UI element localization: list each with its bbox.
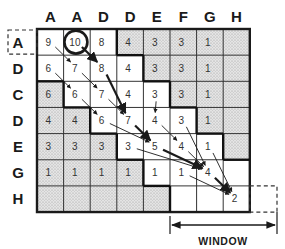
cell-value: 3 — [72, 141, 78, 152]
cell-value: 4 — [125, 63, 131, 74]
shaded-cell — [223, 107, 250, 133]
column-headers: AADDEFGH — [45, 8, 242, 25]
cell-value: 6 — [99, 115, 105, 126]
cell-value: 9 — [46, 37, 52, 48]
end-cell-dashed-box — [250, 186, 277, 212]
row-header: D — [13, 60, 24, 77]
cell-value: 6 — [72, 89, 78, 100]
cell-value: 7 — [125, 115, 131, 126]
cell-value: 4 — [179, 141, 185, 152]
row-header: A — [13, 34, 24, 51]
row-headers: ADCDEGH — [12, 34, 24, 208]
shaded-cell — [37, 186, 64, 212]
row-header: E — [13, 138, 23, 155]
shaded-cell — [223, 81, 250, 107]
cell-value: 3 — [179, 115, 185, 126]
cell-value: 1 — [152, 167, 158, 178]
cell-value: 4 — [125, 89, 131, 100]
cell-value: 8 — [99, 37, 105, 48]
row-header: D — [13, 112, 24, 129]
cell-value: 1 — [46, 167, 52, 178]
cell-value: 10 — [69, 37, 81, 48]
shaded-cell — [90, 186, 117, 212]
cell-value: 3 — [179, 63, 185, 74]
cell-value: 3 — [46, 141, 52, 152]
row-header: C — [13, 86, 24, 103]
cell-value: 1 — [125, 167, 131, 178]
cell-value: 1 — [72, 167, 78, 178]
cell-value: 7 — [72, 63, 78, 74]
column-header: D — [98, 8, 109, 25]
shaded-cell — [223, 29, 250, 55]
cell-value: 6 — [46, 63, 52, 74]
column-header: A — [45, 8, 56, 25]
cell-value: 1 — [205, 63, 211, 74]
cell-value: 1 — [99, 167, 105, 178]
cell-value: 1 — [179, 167, 185, 178]
cell-value: 8 — [99, 63, 105, 74]
shaded-cell — [117, 186, 144, 212]
column-header: E — [152, 8, 162, 25]
cell-value: 4 — [205, 167, 211, 178]
cell-value: 4 — [72, 115, 78, 126]
column-header: A — [71, 8, 82, 25]
cell-value: 1 — [205, 115, 211, 126]
shaded-cell — [223, 55, 250, 81]
cell-value: 4 — [152, 115, 158, 126]
cell-value: 3 — [125, 141, 131, 152]
row-header: H — [13, 190, 24, 207]
cell-value: 2 — [232, 193, 238, 204]
cell-value: 1 — [205, 37, 211, 48]
column-header: D — [125, 8, 136, 25]
cell-value: 3 — [99, 141, 105, 152]
alignment-matrix-diagram: AADDEFGH ADCDEGH 91084331678433166743314… — [0, 0, 285, 249]
shaded-cell — [143, 186, 170, 212]
cell-value: 3 — [152, 89, 158, 100]
cell-value: 5 — [152, 141, 158, 152]
cell-value: 3 — [152, 63, 158, 74]
cell-value: 1 — [205, 89, 211, 100]
cell-value: 4 — [125, 37, 131, 48]
cell-value: 3 — [179, 37, 185, 48]
cell-value: 6 — [46, 89, 52, 100]
window-label: WINDOW — [198, 235, 248, 247]
column-header: G — [204, 8, 216, 25]
column-header: F — [179, 8, 188, 25]
band-cell — [170, 186, 197, 212]
window-arrow: WINDOW — [170, 212, 277, 247]
cell-value: 4 — [46, 115, 52, 126]
cell-value: 3 — [152, 37, 158, 48]
column-header: H — [231, 8, 242, 25]
row-header: G — [12, 164, 24, 181]
cell-value: 7 — [99, 89, 105, 100]
cell-value: 1 — [205, 141, 211, 152]
shaded-cell — [223, 134, 250, 160]
shaded-cell — [64, 186, 91, 212]
cell-value: 3 — [179, 89, 185, 100]
